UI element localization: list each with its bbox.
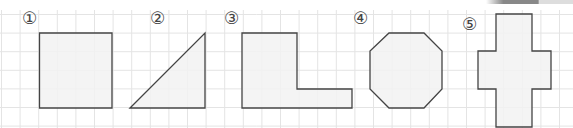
figure-2-number: ②	[150, 10, 165, 27]
figure-1-number: ①	[22, 10, 37, 27]
figure-5-cross	[478, 14, 551, 127]
header-tab-decoration	[486, 0, 573, 4]
figure-3-l-shape	[242, 33, 352, 108]
figure-2-triangle	[130, 33, 205, 108]
figure-5-number: ⑤	[462, 16, 477, 33]
figure-1-square	[40, 33, 113, 108]
figure-3-number: ③	[224, 10, 239, 27]
figure-4-number: ④	[353, 10, 368, 27]
figure-4-octagon	[370, 33, 442, 108]
worksheet: ① ② ③ ④ ⑤	[0, 0, 573, 128]
figures-layer	[0, 0, 573, 128]
